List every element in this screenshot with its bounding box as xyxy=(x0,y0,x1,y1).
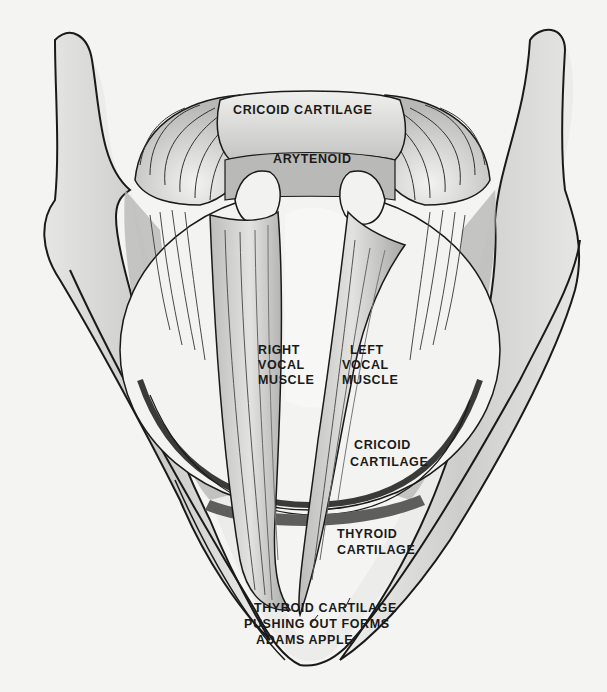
label-text: ARYTENOID xyxy=(273,152,352,167)
label-line: CARTILAGE xyxy=(337,542,415,558)
label-left-vocal-muscle: LEFT VOCAL MUSCLE xyxy=(342,343,398,388)
label-thyroid-cartilage: THYROID CARTILAGE xyxy=(337,526,415,558)
label-line: MUSCLE xyxy=(342,373,398,388)
label-adams-apple: THYROID CARTILAGE PUSHING OUT FORMS ADAM… xyxy=(252,600,397,648)
label-line: ADAMS APPLE xyxy=(252,632,397,648)
label-arytenoid: ARYTENOID xyxy=(273,152,352,167)
label-line: VOCAL xyxy=(342,358,398,373)
larynx-illustration: CRICOID CARTILAGE ARYTENOID RIGHT VOCAL … xyxy=(0,0,607,692)
label-line: CRICOID xyxy=(350,437,428,454)
label-cricoid-cartilage-top: CRICOID CARTILAGE xyxy=(233,103,372,118)
label-line: THYROID xyxy=(337,526,415,542)
label-right-vocal-muscle: RIGHT VOCAL MUSCLE xyxy=(258,343,314,388)
label-line: VOCAL xyxy=(258,358,314,373)
label-line: RIGHT xyxy=(258,343,314,358)
label-line: CARTILAGE xyxy=(350,454,428,471)
label-cricoid-cartilage-lower: CRICOID CARTILAGE xyxy=(350,437,428,471)
label-line: THYROID CARTILAGE xyxy=(252,600,397,616)
label-text: CRICOID CARTILAGE xyxy=(233,103,372,118)
label-line: MUSCLE xyxy=(258,373,314,388)
label-line: PUSHING OUT FORMS xyxy=(244,616,397,632)
label-line: LEFT xyxy=(342,343,398,358)
